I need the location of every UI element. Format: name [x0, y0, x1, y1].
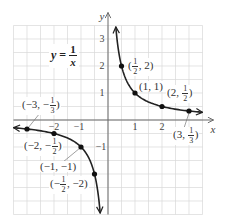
label-fraction: 12: [60, 176, 66, 194]
point-label-3-third: (3, 13): [172, 127, 199, 145]
equation-denominator: x: [69, 56, 77, 68]
point-label-neg3-negthird: (−3, −13): [21, 97, 61, 115]
label-numerator: 1: [132, 58, 138, 67]
data-point: [186, 108, 191, 113]
label-denominator: 2: [182, 94, 188, 103]
label-fraction: 13: [188, 127, 194, 145]
point-label-2-half: (2, 12): [166, 85, 193, 103]
point-label-1-1: (1, 1): [138, 81, 164, 92]
label-text: , 2): [139, 59, 154, 71]
label-text: (2,: [167, 86, 182, 98]
x-tick-label: −2: [49, 122, 60, 132]
label-text: ): [189, 86, 193, 98]
label-numerator: 1: [52, 138, 58, 147]
data-point: [24, 126, 29, 131]
data-point: [119, 63, 124, 68]
label-text: ): [195, 128, 199, 140]
equation-label: y = 1x: [49, 44, 79, 68]
data-point: [92, 171, 97, 176]
equation-equals: =: [56, 48, 69, 62]
x-tick-label: −1: [74, 122, 85, 132]
equation-fraction: 1x: [69, 44, 77, 68]
label-text: (3,: [173, 128, 188, 140]
label-numerator: 1: [182, 85, 188, 94]
label-text: (−2, −: [24, 139, 51, 151]
label-numerator: 1: [60, 176, 66, 185]
y-axis-label: y: [100, 11, 105, 22]
label-denominator: 2: [60, 185, 66, 194]
label-denominator: 2: [132, 67, 138, 76]
label-denominator: 2: [52, 147, 58, 156]
label-numerator: 1: [188, 127, 194, 136]
label-text: (: [128, 59, 132, 71]
equation-numerator: 1: [69, 44, 77, 56]
label-fraction: 12: [182, 85, 188, 103]
label-text: ): [58, 139, 62, 151]
data-point: [132, 90, 137, 95]
label-text: (1, 1): [139, 80, 163, 92]
y-tick-label: 1: [100, 88, 105, 98]
label-text: (−3, −: [22, 98, 49, 110]
label-text: ): [56, 98, 60, 110]
label-text: (−: [50, 177, 60, 189]
data-point: [78, 144, 83, 149]
label-fraction: 12: [132, 58, 138, 76]
label-denominator: 3: [188, 136, 194, 145]
x-tick-label: 1: [133, 122, 138, 132]
x-tick-label: 2: [160, 122, 165, 132]
x-axis-label: x: [211, 124, 216, 135]
label-denominator: 3: [50, 106, 56, 115]
point-label-neg2-neghalf: (−2, −12): [23, 138, 63, 156]
point-label-half-2: (12, 2): [127, 58, 154, 76]
label-text: , −2): [67, 177, 88, 189]
label-text: (−1, −1): [40, 160, 76, 172]
y-tick-label: 3: [100, 34, 105, 44]
label-fraction: 13: [50, 97, 56, 115]
point-label-neghalf-neg2: (−12, −2): [49, 176, 89, 194]
y-tick-label: 2: [100, 61, 105, 71]
y-tick-label: −1: [96, 142, 107, 152]
label-numerator: 1: [50, 97, 56, 106]
label-fraction: 12: [52, 138, 58, 156]
data-point: [159, 104, 164, 109]
point-label-neg1-neg1: (−1, −1): [39, 161, 77, 172]
